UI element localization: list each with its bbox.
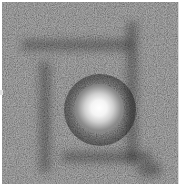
bright-point-source bbox=[74, 84, 124, 134]
left-edge-tick-mark bbox=[0, 90, 3, 95]
dark-band-top bbox=[22, 40, 132, 50]
dark-band-left bbox=[40, 62, 50, 172]
dark-band-bottom bbox=[62, 152, 152, 162]
dark-spot-bottom-right bbox=[137, 162, 162, 177]
frame-border-right bbox=[178, 2, 179, 184]
image-frame bbox=[2, 2, 178, 184]
